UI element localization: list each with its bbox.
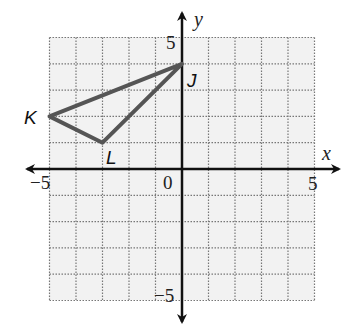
x-axis-label: x <box>321 142 331 164</box>
coordinate-plane: x y −5 5 0 5 −5 J K L <box>0 0 351 333</box>
tick-x-neg: −5 <box>30 172 50 193</box>
y-axis-label: y <box>192 8 203 31</box>
tick-origin: 0 <box>163 172 173 193</box>
vertex-label-k: K <box>24 107 38 128</box>
vertex-label-j: J <box>186 70 197 91</box>
tick-x-pos: 5 <box>308 173 318 194</box>
tick-y-pos: 5 <box>166 32 176 53</box>
vertex-label-l: L <box>106 147 117 168</box>
tick-y-neg: −5 <box>154 285 174 306</box>
